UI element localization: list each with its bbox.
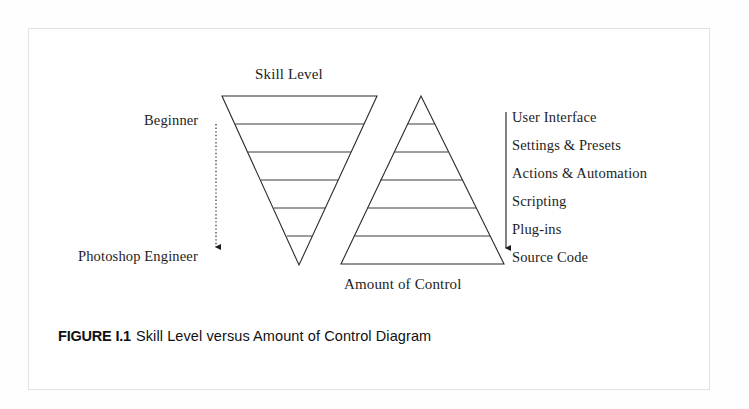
right-axis-level-plug-ins: Plug-ins	[512, 215, 702, 243]
right-axis-level-user-interface: User Interface	[512, 103, 702, 131]
amount-of-control-title: Amount of Control	[344, 276, 462, 293]
figure-caption: FIGURE I.1Skill Level versus Amount of C…	[58, 328, 658, 344]
figure-page: Skill Level Amount of Control Beginner P…	[0, 0, 749, 409]
right-axis-level-settings-presets: Settings & Presets	[512, 131, 702, 159]
right-axis-level-scripting: Scripting	[512, 187, 702, 215]
left-axis-top-label: Beginner	[144, 112, 198, 129]
skill-level-title: Skill Level	[255, 66, 323, 83]
right-axis-label-stack: User Interface Settings & Presets Action…	[512, 103, 702, 271]
figure-caption-text: Skill Level versus Amount of Control Dia…	[136, 328, 431, 344]
figure-caption-number: FIGURE I.1	[58, 328, 131, 344]
right-axis-level-source-code: Source Code	[512, 243, 702, 271]
right-axis-level-actions-automation: Actions & Automation	[512, 159, 702, 187]
left-axis-bottom-label: Photoshop Engineer	[78, 248, 198, 265]
